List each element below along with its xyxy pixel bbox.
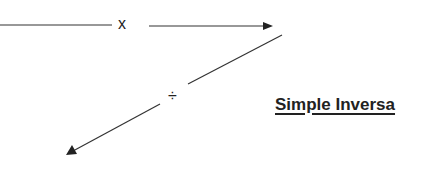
divide-arrow-upper-segment xyxy=(188,35,282,84)
multiply-operator-label: x xyxy=(118,15,126,33)
diagram-title: Simple Inversa xyxy=(275,95,395,115)
multiply-arrow xyxy=(0,22,273,30)
diagram-canvas xyxy=(0,0,429,169)
divide-arrow-lower-segment xyxy=(73,104,160,151)
divide-operator-label: ÷ xyxy=(168,87,177,105)
arrowhead-right-icon xyxy=(263,22,273,30)
